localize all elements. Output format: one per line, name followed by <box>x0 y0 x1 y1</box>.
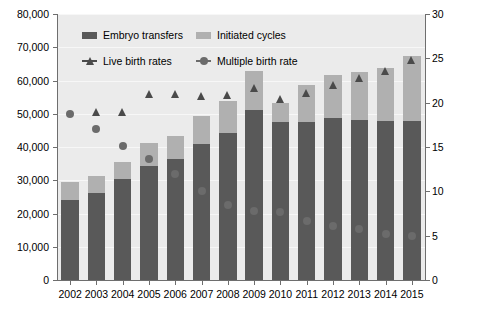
y-tick-left <box>53 47 57 48</box>
bar-initiated-cycles[interactable] <box>167 136 184 159</box>
y-axis-label-right: 25 <box>432 52 444 64</box>
bar-embryo-transfers[interactable] <box>245 110 262 280</box>
y-tick-right <box>426 103 430 104</box>
marker-live-birth-rate[interactable] <box>407 56 415 64</box>
y-tick-left <box>53 147 57 148</box>
marker-live-birth-rate[interactable] <box>197 92 205 100</box>
y-tick-right <box>426 58 430 59</box>
bar-embryo-transfers[interactable] <box>403 121 420 280</box>
gridline-horizontal <box>57 114 425 115</box>
gridline-horizontal <box>57 247 425 248</box>
gridline-horizontal <box>57 147 425 148</box>
bar-initiated-cycles[interactable] <box>61 182 78 200</box>
bar-embryo-transfers[interactable] <box>140 166 157 280</box>
x-tick <box>123 281 124 285</box>
x-tick <box>307 281 308 285</box>
bar-embryo-transfers[interactable] <box>272 122 289 280</box>
marker-multiple-birth-rate[interactable] <box>224 201 232 209</box>
y-axis-label-left: 10,000 <box>0 241 49 253</box>
x-axis-label: 2015 <box>400 288 423 300</box>
gridline-horizontal <box>57 14 425 15</box>
x-axis-label: 2010 <box>269 288 292 300</box>
y-tick-right <box>426 236 430 237</box>
marker-live-birth-rate[interactable] <box>302 89 310 97</box>
marker-live-birth-rate[interactable] <box>276 95 284 103</box>
marker-multiple-birth-rate[interactable] <box>171 170 179 178</box>
marker-live-birth-rate[interactable] <box>250 84 258 92</box>
marker-multiple-birth-rate[interactable] <box>355 225 363 233</box>
legend-label-3: Live birth rates <box>103 55 172 67</box>
bar-initiated-cycles[interactable] <box>272 103 289 121</box>
x-axis-label: 2005 <box>137 288 160 300</box>
x-axis-label: 2014 <box>374 288 397 300</box>
bar-initiated-cycles[interactable] <box>219 101 236 133</box>
x-tick <box>149 281 150 285</box>
marker-live-birth-rate[interactable] <box>381 67 389 75</box>
bar-embryo-transfers[interactable] <box>88 193 105 280</box>
marker-live-birth-rate[interactable] <box>171 90 179 98</box>
legend-label-4: Multiple birth rate <box>217 55 298 67</box>
x-tick <box>70 281 71 285</box>
x-axis-label: 2003 <box>85 288 108 300</box>
bar-initiated-cycles[interactable] <box>193 116 210 144</box>
marker-multiple-birth-rate[interactable] <box>119 142 127 150</box>
y-axis-left <box>57 14 58 281</box>
y-tick-left <box>53 180 57 181</box>
bar-embryo-transfers[interactable] <box>351 120 368 280</box>
chart-container: 010,00020,00030,00040,00050,00060,00070,… <box>0 0 482 311</box>
marker-live-birth-rate[interactable] <box>355 74 363 82</box>
y-tick-left <box>53 214 57 215</box>
marker-multiple-birth-rate[interactable] <box>250 207 258 215</box>
bar-embryo-transfers[interactable] <box>377 121 394 280</box>
bar-initiated-cycles[interactable] <box>88 176 105 193</box>
marker-multiple-birth-rate[interactable] <box>382 230 390 238</box>
x-axis-label: 2011 <box>295 288 318 300</box>
bar-embryo-transfers[interactable] <box>61 200 78 280</box>
marker-multiple-birth-rate[interactable] <box>329 222 337 230</box>
legend-marker-tri-3 <box>86 57 94 65</box>
y-tick-left <box>53 14 57 15</box>
y-axis-label-right: 30 <box>432 8 444 20</box>
marker-live-birth-rate[interactable] <box>118 108 126 116</box>
y-tick-left <box>53 247 57 248</box>
x-tick <box>175 281 176 285</box>
y-axis-label-left: 20,000 <box>0 208 49 220</box>
legend-marker-1 <box>82 32 97 39</box>
marker-live-birth-rate[interactable] <box>223 91 231 99</box>
bar-embryo-transfers[interactable] <box>324 118 341 280</box>
gridline-horizontal <box>57 214 425 215</box>
y-axis-label-right: 20 <box>432 97 444 109</box>
legend-label-2: Initiated cycles <box>217 29 286 41</box>
y-axis-label-right: 0 <box>432 274 438 286</box>
y-tick-right <box>426 14 430 15</box>
x-tick <box>333 281 334 285</box>
x-tick <box>359 281 360 285</box>
marker-live-birth-rate[interactable] <box>92 108 100 116</box>
legend-marker-cir-4 <box>200 57 208 65</box>
bar-initiated-cycles[interactable] <box>403 56 420 122</box>
x-axis-label: 2012 <box>321 288 344 300</box>
bar-embryo-transfers[interactable] <box>114 179 131 280</box>
legend-marker-2 <box>196 32 211 39</box>
bar-initiated-cycles[interactable] <box>114 162 131 180</box>
y-axis-label-right: 10 <box>432 185 444 197</box>
x-axis <box>57 280 426 281</box>
x-tick <box>202 281 203 285</box>
x-tick <box>386 281 387 285</box>
x-tick <box>96 281 97 285</box>
bar-embryo-transfers[interactable] <box>193 144 210 280</box>
marker-live-birth-rate[interactable] <box>145 90 153 98</box>
x-axis-label: 2013 <box>348 288 371 300</box>
y-tick-left <box>53 114 57 115</box>
marker-multiple-birth-rate[interactable] <box>408 232 416 240</box>
y-axis-label-right: 15 <box>432 141 444 153</box>
bar-embryo-transfers[interactable] <box>298 122 315 280</box>
bar-initiated-cycles[interactable] <box>377 68 394 121</box>
y-axis-label-left: 40,000 <box>0 141 49 153</box>
gridline-horizontal <box>57 180 425 181</box>
marker-live-birth-rate[interactable] <box>329 81 337 89</box>
x-tick <box>412 281 413 285</box>
x-axis-label: 2004 <box>111 288 134 300</box>
marker-multiple-birth-rate[interactable] <box>198 187 206 195</box>
x-tick <box>280 281 281 285</box>
